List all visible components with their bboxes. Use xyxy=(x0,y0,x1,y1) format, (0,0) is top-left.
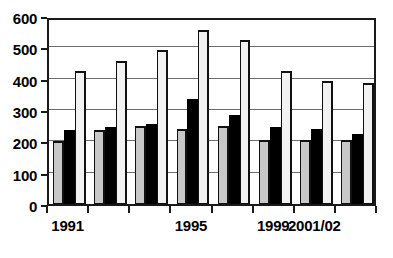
bar-group xyxy=(90,20,131,204)
bar-group xyxy=(337,20,378,204)
bar-group xyxy=(131,20,172,204)
x-tick-label-1991: 1991 xyxy=(51,217,84,234)
x-tick-mark xyxy=(169,206,171,213)
bar xyxy=(270,127,281,204)
bar xyxy=(363,83,374,204)
bar-chart: 0100200300400500600 1991199519992001/02 xyxy=(0,0,393,258)
x-tick-mark xyxy=(128,206,130,213)
x-tick-label-1999: 1999 xyxy=(257,217,290,234)
bar xyxy=(311,129,322,204)
bar xyxy=(300,140,311,204)
bar-group xyxy=(172,20,213,204)
bar xyxy=(105,127,116,204)
x-tick-label-1995: 1995 xyxy=(175,217,208,234)
y-axis: 0100200300400500600 xyxy=(0,0,47,258)
bar xyxy=(229,115,240,204)
bar xyxy=(53,141,64,204)
y-tick-label-400: 400 xyxy=(13,72,37,89)
bar xyxy=(341,140,352,204)
x-tick-mark xyxy=(334,206,336,213)
bar xyxy=(240,40,251,205)
bar xyxy=(157,50,168,204)
bar xyxy=(116,61,127,204)
bar xyxy=(135,126,146,204)
bar-group xyxy=(255,20,296,204)
bars-layer xyxy=(49,20,374,204)
bar xyxy=(75,71,86,204)
x-tick-mark xyxy=(293,206,295,213)
x-tick-mark xyxy=(375,206,377,213)
bar xyxy=(198,30,209,204)
bar xyxy=(322,81,333,204)
bar-group xyxy=(296,20,337,204)
bar xyxy=(281,71,292,204)
x-axis: 1991199519992001/02 xyxy=(47,206,376,258)
x-tick-label-2001-02: 2001/02 xyxy=(288,217,341,234)
bar xyxy=(352,134,363,204)
bar xyxy=(94,130,105,204)
bar xyxy=(146,124,157,204)
bar-group xyxy=(49,20,90,204)
bar xyxy=(187,99,198,204)
plot-area xyxy=(47,18,376,206)
bar xyxy=(177,129,188,204)
bar xyxy=(259,140,270,204)
x-tick-mark xyxy=(252,206,254,213)
y-tick-label-200: 200 xyxy=(13,135,37,152)
bar xyxy=(64,130,75,204)
bar-group xyxy=(214,20,255,204)
x-tick-mark xyxy=(211,206,213,213)
y-tick-label-600: 600 xyxy=(13,10,37,27)
y-tick-label-300: 300 xyxy=(13,104,37,121)
y-tick-label-100: 100 xyxy=(13,166,37,183)
y-tick-label-500: 500 xyxy=(13,41,37,58)
y-tick-label-0: 0 xyxy=(29,198,37,215)
x-tick-mark xyxy=(46,206,48,213)
x-tick-mark xyxy=(87,206,89,213)
bar xyxy=(218,126,229,204)
